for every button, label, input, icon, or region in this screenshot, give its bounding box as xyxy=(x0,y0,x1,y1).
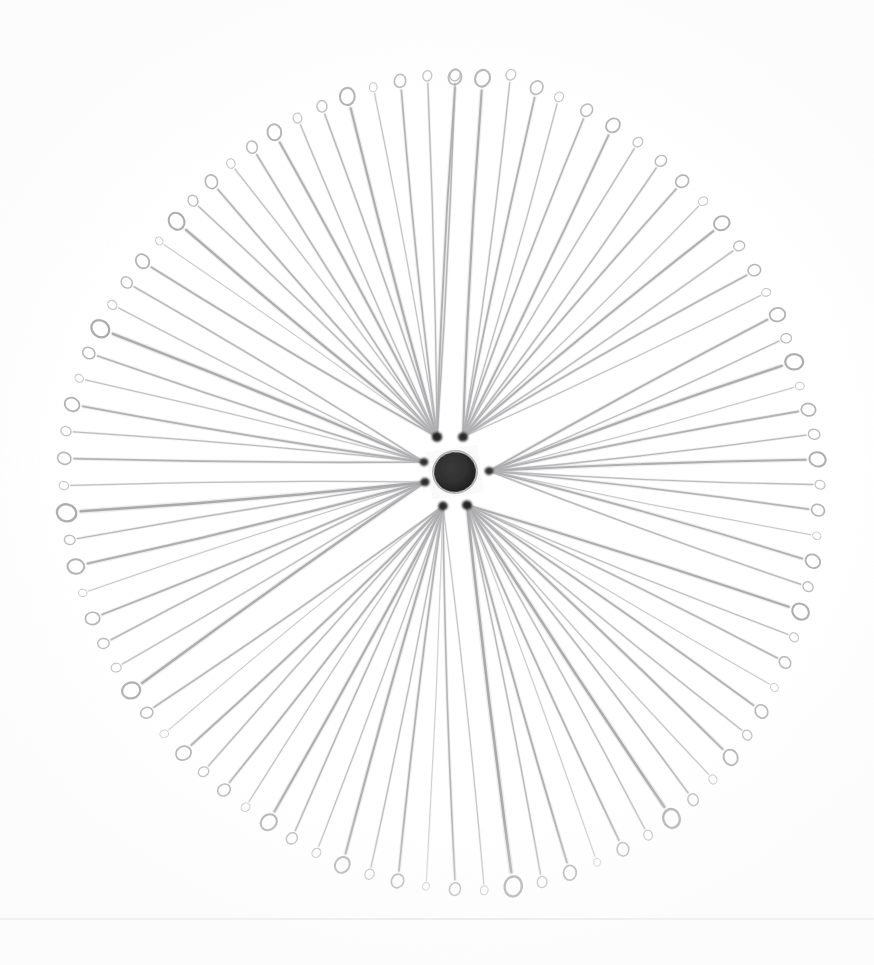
paper-edge-line xyxy=(0,918,874,920)
anchor-top-left xyxy=(432,432,442,442)
paper-edge-layer xyxy=(0,918,874,920)
anchor-right xyxy=(485,467,494,475)
anchor-left-upper xyxy=(420,458,429,466)
anchor-bottom-right xyxy=(462,500,472,509)
radial-pin-illustration xyxy=(0,0,874,965)
anchor-top-right xyxy=(458,432,468,441)
anchor-left-lower xyxy=(420,478,429,486)
image-canvas xyxy=(0,0,874,965)
anchor-bottom-left xyxy=(438,502,448,511)
